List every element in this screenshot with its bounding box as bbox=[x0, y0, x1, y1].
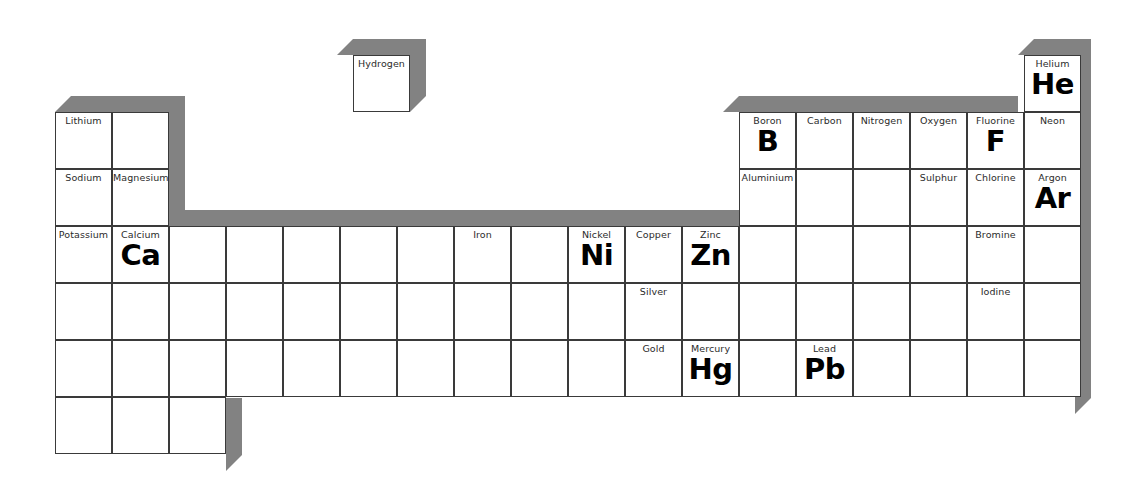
element-cell-zirconium[interactable] bbox=[226, 283, 283, 340]
element-cell-sulphur[interactable]: Sulphur bbox=[910, 169, 967, 226]
element-cell-gold[interactable]: Gold bbox=[625, 340, 682, 397]
element-cell-palladium[interactable] bbox=[568, 283, 625, 340]
element-name-magnesium: Magnesium bbox=[113, 172, 168, 183]
element-cell-zinc[interactable]: ZincZn bbox=[682, 226, 739, 283]
element-cell-rhodium[interactable] bbox=[511, 283, 568, 340]
element-name-chlorine: Chlorine bbox=[968, 172, 1023, 183]
element-cell-iodine[interactable]: Iodine bbox=[967, 283, 1024, 340]
element-cell-bismuth[interactable] bbox=[853, 340, 910, 397]
element-name-silver: Silver bbox=[626, 286, 681, 297]
element-cell-molybdenum[interactable] bbox=[340, 283, 397, 340]
element-cell-manganese[interactable] bbox=[397, 226, 454, 283]
element-cell-hafnium[interactable] bbox=[226, 340, 283, 397]
element-cell-calcium[interactable]: CalciumCa bbox=[112, 226, 169, 283]
element-cell-tin[interactable] bbox=[796, 283, 853, 340]
element-cell-oxygen[interactable]: Oxygen bbox=[910, 112, 967, 169]
element-cell-selenium[interactable] bbox=[910, 226, 967, 283]
element-cell-lithium[interactable]: Lithium bbox=[55, 112, 112, 169]
element-cell-aluminium[interactable]: Aluminium bbox=[739, 169, 796, 226]
element-cell-iridium[interactable] bbox=[511, 340, 568, 397]
element-cell-rubidium[interactable] bbox=[55, 283, 112, 340]
element-cell-cadmium[interactable] bbox=[682, 283, 739, 340]
element-cell-copper[interactable]: Copper bbox=[625, 226, 682, 283]
element-name-lithium: Lithium bbox=[56, 115, 111, 126]
element-cell-magnesium[interactable]: Magnesium bbox=[112, 169, 169, 226]
element-cell-strontium[interactable] bbox=[112, 283, 169, 340]
element-cell-argon[interactable]: ArgonAr bbox=[1024, 169, 1081, 226]
element-cell-barium[interactable] bbox=[112, 340, 169, 397]
element-cell-tungsten[interactable] bbox=[340, 340, 397, 397]
element-cell-bromine[interactable]: Bromine bbox=[967, 226, 1024, 283]
element-cell-platinum[interactable] bbox=[568, 340, 625, 397]
element-cell-astatine[interactable] bbox=[967, 340, 1024, 397]
element-cell-gallium[interactable] bbox=[739, 226, 796, 283]
periodic-table-diagram: HeliumHeLithiumBoronBCarbonNitrogenOxyge… bbox=[0, 0, 1145, 490]
element-cell-technetium[interactable] bbox=[397, 283, 454, 340]
element-cell-krypton[interactable] bbox=[1024, 226, 1081, 283]
element-symbol-mercury: Hg bbox=[683, 352, 738, 386]
extrusion-bevel-bottom-right bbox=[1075, 398, 1091, 414]
element-symbol-calcium: Ca bbox=[113, 238, 168, 272]
element-cell-neon[interactable]: Neon bbox=[1024, 112, 1081, 169]
extrusion-right-s-block bbox=[169, 96, 185, 226]
element-cell-ruthenium[interactable] bbox=[454, 283, 511, 340]
element-cell-silicon[interactable] bbox=[796, 169, 853, 226]
element-cell-radium[interactable] bbox=[112, 397, 169, 454]
element-symbol-nickel: Ni bbox=[569, 238, 624, 272]
element-cell-yttrium[interactable] bbox=[169, 283, 226, 340]
element-symbol-fluorine: F bbox=[968, 124, 1023, 158]
element-cell-arsenic[interactable] bbox=[853, 226, 910, 283]
element-name-carbon: Carbon bbox=[797, 115, 852, 126]
element-cell-boron[interactable]: BoronB bbox=[739, 112, 796, 169]
element-cell-chromium[interactable] bbox=[340, 226, 397, 283]
element-cell-caesium[interactable] bbox=[55, 340, 112, 397]
element-cell-indium[interactable] bbox=[739, 283, 796, 340]
extrusion-bevel-p-block bbox=[723, 96, 739, 112]
element-cell-beryllium[interactable] bbox=[112, 112, 169, 169]
element-cell-titanium[interactable] bbox=[226, 226, 283, 283]
element-cell-iron[interactable]: Iron bbox=[454, 226, 511, 283]
element-cell-vanadium[interactable] bbox=[283, 226, 340, 283]
element-name-neon: Neon bbox=[1025, 115, 1080, 126]
element-cell-thallium[interactable] bbox=[739, 340, 796, 397]
extrusion-bevel-helium bbox=[1018, 39, 1034, 55]
element-cell-scandium[interactable] bbox=[169, 226, 226, 283]
element-cell-nitrogen[interactable]: Nitrogen bbox=[853, 112, 910, 169]
element-cell-chlorine[interactable]: Chlorine bbox=[967, 169, 1024, 226]
element-name-gold: Gold bbox=[626, 343, 681, 354]
extrusion-top-hydrogen bbox=[353, 39, 410, 55]
element-cell-lead[interactable]: LeadPb bbox=[796, 340, 853, 397]
extrusion-top-s-block bbox=[71, 96, 185, 112]
element-cell-hydrogen[interactable]: Hydrogen bbox=[353, 55, 410, 112]
element-cell-radon[interactable] bbox=[1024, 340, 1081, 397]
element-cell-niobium[interactable] bbox=[283, 283, 340, 340]
element-name-sodium: Sodium bbox=[56, 172, 111, 183]
element-cell-osmium[interactable] bbox=[454, 340, 511, 397]
element-cell-tantalum[interactable] bbox=[283, 340, 340, 397]
element-cell-helium[interactable]: HeliumHe bbox=[1024, 55, 1081, 112]
element-cell-silver[interactable]: Silver bbox=[625, 283, 682, 340]
element-cell-phosphorus[interactable] bbox=[853, 169, 910, 226]
element-cell-carbon[interactable]: Carbon bbox=[796, 112, 853, 169]
element-cell-tellurium[interactable] bbox=[910, 283, 967, 340]
element-cell-germanium[interactable] bbox=[796, 226, 853, 283]
element-cell-francium[interactable] bbox=[55, 397, 112, 454]
element-cell-xenon[interactable] bbox=[1024, 283, 1081, 340]
element-name-iodine: Iodine bbox=[968, 286, 1023, 297]
element-cell-hydrogen-floating[interactable]: Hydrogen bbox=[337, 39, 410, 112]
element-cell-fluorine[interactable]: FluorineF bbox=[967, 112, 1024, 169]
element-cell-antimony[interactable] bbox=[853, 283, 910, 340]
element-cell-rhenium[interactable] bbox=[397, 340, 454, 397]
extrusion-bevel-row7 bbox=[226, 455, 242, 471]
element-name-sulphur: Sulphur bbox=[911, 172, 966, 183]
element-cell-potassium[interactable]: Potassium bbox=[55, 226, 112, 283]
element-cell-cobalt[interactable] bbox=[511, 226, 568, 283]
element-name-iron: Iron bbox=[455, 229, 510, 240]
element-cell-nickel[interactable]: NickelNi bbox=[568, 226, 625, 283]
element-cell-sodium[interactable]: Sodium bbox=[55, 169, 112, 226]
element-cell-lanthanum[interactable] bbox=[169, 340, 226, 397]
element-cell-actinium[interactable] bbox=[169, 397, 226, 454]
element-cell-mercury[interactable]: MercuryHg bbox=[682, 340, 739, 397]
element-cell-polonium[interactable] bbox=[910, 340, 967, 397]
extrusion-top-d-block bbox=[169, 210, 739, 226]
